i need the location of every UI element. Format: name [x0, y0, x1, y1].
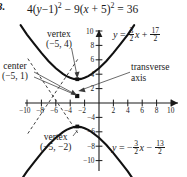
y-tick-label-10: 10 — [86, 28, 93, 35]
asymptote-upper-slope-fraction: 3 2 — [129, 27, 135, 44]
asymptote-lower-lhs: y — [112, 142, 116, 153]
x-tick-label-neg6: −6 — [50, 107, 58, 114]
asymptote-lower-const-den: 2 — [155, 147, 165, 156]
center-label: center (−5, 1) — [2, 62, 28, 81]
asymptote-upper-equation: y = 3 2 x + 17 2 — [113, 27, 161, 44]
asymptote-upper-lhs: y — [113, 29, 117, 40]
y-tick-label-6: 6 — [91, 56, 95, 63]
asymptote-lower-equals: = — [119, 142, 125, 153]
vertex-top-coords: (−5, 4) — [46, 40, 72, 50]
y-tick-label-neg8: −8 — [87, 143, 95, 150]
equation-minus-sign: − — [65, 3, 72, 15]
asymptote-lower-equation: y = − 3 2 x − 13 2 — [112, 140, 165, 157]
asymptote-upper-var: x — [135, 29, 139, 40]
transverse-axis-line2: axis — [131, 73, 170, 84]
x-tick-label-neg8: −8 — [36, 107, 44, 114]
equation-term1-shift: −1 — [42, 3, 54, 15]
asymptote-lines — [28, 59, 78, 134]
asymptote-lower-const-fraction: 13 2 — [155, 140, 165, 157]
x-tick-label-6: 6 — [140, 107, 144, 114]
equation-term2-var: x — [84, 3, 89, 15]
asymptote-upper-operator: + — [142, 29, 148, 40]
leader-vertex-bottom — [73, 131, 77, 137]
equation-equals: = — [117, 3, 124, 15]
x-tick-label-10: 10 — [167, 107, 174, 114]
equation-exponent-1: 2 — [58, 1, 62, 10]
y-tick-label-8: 8 — [91, 42, 95, 49]
y-tick-label-4: 4 — [91, 71, 95, 78]
asymptote-lower-slope-fraction: 3 2 — [133, 140, 139, 157]
y-tick-label-neg6: −6 — [87, 128, 95, 135]
y-tick-label-neg10: −10 — [83, 157, 95, 164]
asymptote-upper-slope-num: 3 — [129, 27, 135, 35]
equation-exponent-2: 2 — [111, 1, 115, 10]
conic-equation: 4(y−1)2 − 9(x + 5)2 = 36 — [27, 2, 138, 15]
asymptote-lower-var: x — [140, 142, 144, 153]
center-coords: (−5, 1) — [2, 72, 28, 82]
x-tick-label-2: 2 — [112, 107, 116, 114]
problem-number: 3. — [0, 1, 5, 12]
asymptote-lower-slope-den: 2 — [133, 147, 139, 156]
asymptote-upper-const-den: 2 — [150, 34, 160, 43]
y-tick-label-2: 2 — [91, 85, 95, 92]
equation-term2-shift: + 5 — [92, 3, 107, 15]
asymptote-lower-operator: − — [146, 142, 152, 153]
asymptote-upper-const-fraction: 17 2 — [150, 27, 160, 44]
leader-center-arrow — [71, 90, 78, 96]
asymptote-lower-slope-num: 3 — [133, 140, 139, 148]
leader-center-a — [34, 72, 74, 94]
vertex-bottom-coords: (−5, −2) — [40, 143, 71, 153]
equation-rhs: 36 — [127, 3, 139, 15]
asymptote-upper-const-num: 17 — [150, 27, 160, 35]
asymptote-upper-slope-den: 2 — [129, 34, 135, 43]
asymptote-upper-equals: = — [120, 29, 126, 40]
vertex-top-label: vertex (−5, 4) — [46, 30, 72, 49]
x-tick-label-4: 4 — [126, 107, 130, 114]
x-tick-label-8: 8 — [155, 107, 159, 114]
asymptote-lower-sign: − — [127, 142, 133, 153]
y-tick-label-neg4: −4 — [87, 114, 95, 121]
asymptote-lower-const-num: 13 — [155, 140, 165, 148]
leader-center-b — [34, 77, 74, 94]
vertex-bottom-label: vertex (−5, −2) — [40, 133, 71, 152]
transverse-axis-label: transverse axis — [131, 62, 170, 83]
vertex-bottom-marker — [75, 125, 79, 129]
x-tick-label-neg10: −10 — [19, 107, 31, 114]
transverse-axis-line1: transverse — [131, 62, 170, 73]
x-tick-label-neg2: −2 — [78, 107, 86, 114]
x-tick-label-neg4: −4 — [64, 107, 72, 114]
leader-transverse-arrow — [78, 88, 85, 93]
